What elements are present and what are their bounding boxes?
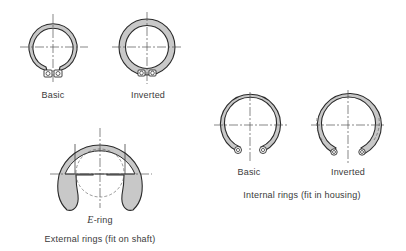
external-basic-label: Basic	[41, 90, 64, 100]
internal-basic-label: Basic	[237, 167, 260, 177]
retaining-rings-diagram: .ring { fill: #c8c8c8; stroke: #2a2a2a; …	[0, 0, 406, 251]
e-ring-label: E-ring	[87, 214, 112, 225]
external-inverted-ring	[112, 12, 183, 84]
e-ring	[50, 128, 152, 210]
internal-inverted-label: Inverted	[331, 167, 365, 177]
external-inverted-label: Inverted	[131, 90, 165, 100]
internal-inverted-ring	[311, 90, 385, 165]
internal-basic-ring	[214, 92, 288, 162]
internal-rings-caption: Internal rings (fit in housing)	[243, 190, 360, 200]
e-ring-suffix: -ring	[94, 215, 113, 225]
external-basic-ring	[20, 14, 88, 82]
external-rings-caption: External rings (fit on shaft)	[45, 234, 156, 244]
